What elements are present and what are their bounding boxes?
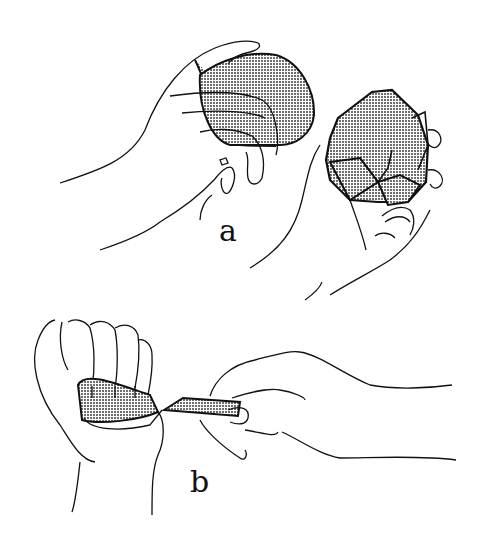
panel-b-left-hand	[35, 320, 164, 515]
panel-a-left-hand	[60, 41, 314, 250]
panel-b-right-hand	[164, 282, 456, 460]
panel-label-a: a	[219, 216, 237, 246]
panel-label-b: b	[190, 467, 209, 497]
illustration	[0, 0, 482, 545]
